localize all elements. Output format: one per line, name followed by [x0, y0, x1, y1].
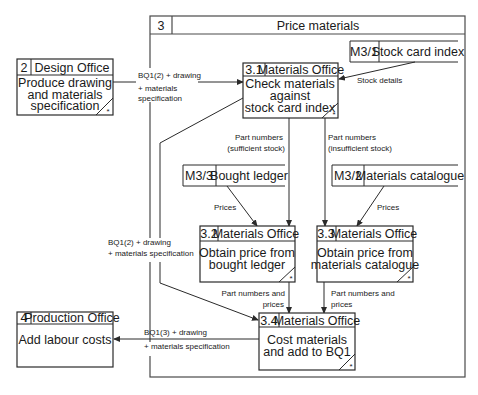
- flow-label: Part numbers: [328, 133, 376, 142]
- parent-process-id: 3: [158, 19, 165, 33]
- process-marker: *: [289, 274, 292, 283]
- flow-label: Prices: [377, 203, 399, 212]
- process-marker: *: [332, 110, 335, 119]
- process-location: Materials Office: [331, 227, 418, 241]
- flow-label: + materials specification: [144, 342, 230, 351]
- process-box-3-1[interactable]: 3.1 Materials Office Check materials aga…: [243, 63, 344, 119]
- data-store-m3-2[interactable]: M3/2 Materials catalogue: [332, 165, 464, 186]
- process-location: Design Office: [35, 61, 110, 75]
- flow-label: Part numbers: [235, 133, 283, 142]
- flow-label: (insufficient stock): [328, 144, 392, 153]
- process-text: specification: [31, 99, 100, 113]
- process-box-3-3[interactable]: 3.3 Materials Office Obtain price from m…: [311, 226, 419, 283]
- process-text: and add to BQ1: [263, 345, 351, 359]
- flow-label: BQ1(2) + drawing: [138, 71, 201, 80]
- process-box-3-2[interactable]: 3.2 Materials Office Obtain price from b…: [199, 226, 299, 283]
- process-location: Materials Office: [213, 227, 300, 241]
- flow-label: Prices: [214, 203, 236, 212]
- flow-label: + materials specification: [108, 249, 194, 258]
- flow-label: Stock details: [357, 76, 402, 85]
- process-marker: *: [106, 107, 109, 116]
- flow-label: prices: [263, 300, 284, 309]
- flow-label: BQ1(2) + drawing: [108, 238, 171, 247]
- store-id: M3/3: [185, 169, 213, 183]
- process-text: bought ledger: [209, 258, 285, 272]
- process-text: Add labour costs: [18, 333, 111, 347]
- process-location: Materials Office: [258, 63, 345, 77]
- flow-label: (sufficient stock): [227, 144, 285, 153]
- flow-label: + materials: [138, 84, 177, 93]
- process-text: materials catalogue: [311, 258, 419, 272]
- store-name: Bought ledger: [210, 169, 288, 183]
- process-box-3-4[interactable]: 3.4 Materials Office Cost materials and …: [259, 313, 360, 371]
- flow-arrow-3-1-to-3-4: [160, 98, 258, 320]
- process-box-2[interactable]: 2 Design Office Produce drawing and mate…: [17, 59, 113, 116]
- process-location: Materials Office: [274, 314, 361, 328]
- data-store-m3-3[interactable]: M3/3 Bought ledger: [183, 165, 288, 186]
- flow-label: BQ1(3) + drawing: [144, 328, 207, 337]
- process-id: 2: [21, 61, 28, 75]
- data-flow-diagram: 3 Price materials BQ1(2) + drawing + mat…: [0, 0, 478, 395]
- process-location: Production Office: [24, 311, 120, 325]
- process-marker: *: [349, 362, 352, 371]
- store-name: Stock card index: [372, 45, 465, 59]
- flow-label: Part numbers and: [221, 289, 285, 298]
- parent-process-title: Price materials: [277, 19, 360, 33]
- flow-label: Part numbers and: [331, 289, 395, 298]
- flow-label: prices: [331, 300, 352, 309]
- data-store-m3-1[interactable]: M3/1 Stock card index: [350, 41, 465, 62]
- process-text: stock card index: [245, 101, 336, 115]
- store-name: Materials catalogue: [356, 169, 464, 183]
- process-marker: *: [407, 274, 410, 283]
- process-box-4[interactable]: 4 Production Office Add labour costs: [17, 311, 120, 367]
- flow-label: specification: [138, 94, 182, 103]
